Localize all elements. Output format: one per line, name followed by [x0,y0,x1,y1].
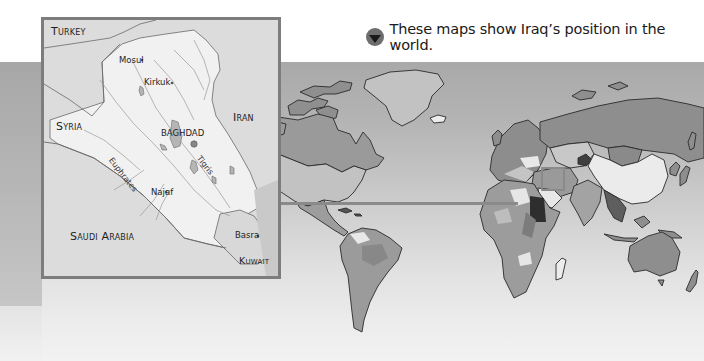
label-kirkuk: Kirkuk [144,77,170,87]
south-america [340,228,402,332]
background-band-left-bottom [0,306,42,361]
label-mosul: Mosul [119,55,144,65]
label-iran: Iran [233,111,254,124]
background-band-left [0,62,42,306]
label-basra: Basra [235,230,259,240]
caption-text: These maps show Iraq’s position in the w… [390,21,704,53]
label-saudi-arabia: Saudi Arabia [70,230,134,243]
label-kuwait: Kuwait [239,255,269,266]
inset-connector-line [278,202,518,205]
down-triangle-bullet-icon [366,28,384,46]
world-map [278,62,704,361]
label-baghdad: BAGHDAD [161,128,204,138]
kirkuk-dot [171,82,174,85]
label-turkey: Turkey [51,25,86,38]
label-najaf: Najaf [151,187,173,197]
caption: These maps show Iraq’s position in the w… [366,26,704,48]
baghdad-dot [191,141,197,147]
india [570,180,602,226]
mexico [296,200,348,236]
iraq-inset-map: Turkey Syria Iran Saudi Arabia Kuwait Mo… [41,17,281,279]
label-syria: Syria [56,120,82,133]
